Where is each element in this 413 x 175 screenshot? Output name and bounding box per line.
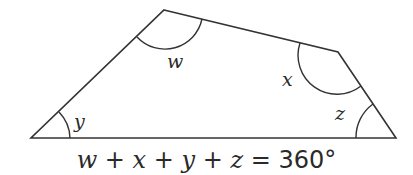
angle-label-w: w	[167, 50, 183, 72]
eq-var-x: x	[133, 146, 147, 174]
angle-arc-z	[356, 104, 373, 138]
angle-label-x: x	[282, 68, 293, 90]
angle-label-y: y	[73, 110, 85, 132]
eq-plus: +	[146, 146, 181, 174]
eq-plus: +	[195, 146, 230, 174]
angle-arc-y	[59, 112, 70, 138]
eq-var-y: y	[182, 146, 196, 174]
angle-sum-equation: w + x + y + z = 360°	[0, 146, 413, 174]
eq-plus: +	[97, 146, 132, 174]
eq-var-z: z	[230, 146, 243, 174]
eq-var-w: w	[77, 146, 98, 174]
eq-equals-360: = 360°	[243, 146, 336, 174]
angle-arc-w	[137, 19, 202, 49]
angle-label-z: z	[334, 102, 346, 124]
